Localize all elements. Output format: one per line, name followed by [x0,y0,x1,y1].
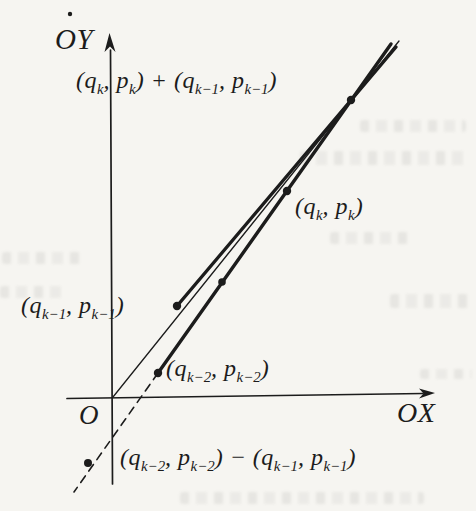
origin-label: O [79,401,99,431]
sum-point-label: (qk, pk) + (qk−1, pk−1) [76,67,277,97]
stray-ink-dot [68,12,72,16]
scanned-book-figure: OY OX O (qk, pk) + (qk−1, pk−1) (qk, pk)… [0,0,476,511]
y-axis-line [111,50,113,484]
x-axis-label: OX [397,398,435,429]
convergent-k-1-label: (qk−1, pk−1) [21,292,124,322]
difference-point-label: (qk−2, pk−2) − (qk−1, pk−1) [120,444,356,474]
point-convergent-k-1 [173,302,181,310]
point-convergent-k-2 [154,369,162,377]
convergent-k-2-label: (qk−2, pk−2) [166,355,269,385]
x-axis-line [67,394,423,399]
point-convergent-k [283,187,291,195]
y-axis-arrowhead [105,33,116,52]
y-axis-label: OY [55,24,93,56]
point-intermediate-step [218,278,226,286]
point-difference [84,459,92,467]
point-sum [347,96,355,104]
convergent-k-label: (qk, pk) [295,193,363,223]
